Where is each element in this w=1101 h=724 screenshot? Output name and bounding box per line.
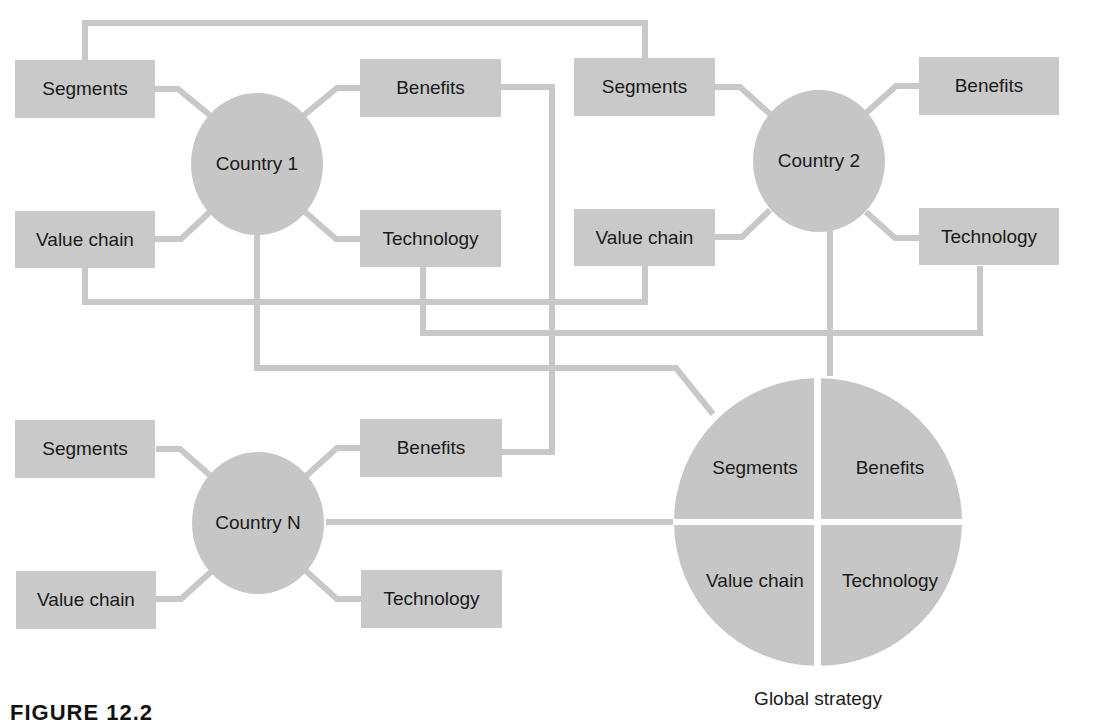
country2-benefits-label: Benefits <box>955 75 1024 97</box>
global-technology-label: Technology <box>842 570 938 592</box>
countryN-value-chain-label: Value chain <box>37 589 135 611</box>
country2-circle: Country 2 <box>753 90 885 232</box>
country1-technology-box: Technology <box>360 210 501 267</box>
country2-benefits-box: Benefits <box>919 57 1059 115</box>
country2-value-chain-box: Value chain <box>574 209 715 266</box>
global-strategy-caption: Global strategy <box>754 688 882 710</box>
global-value-chain-label: Value chain <box>706 570 804 592</box>
country1-benefits-label: Benefits <box>396 77 465 99</box>
country2-label: Country 2 <box>778 150 860 172</box>
country1-benefits-box: Benefits <box>360 59 501 117</box>
country2-technology-box: Technology <box>919 208 1059 265</box>
countryN-technology-label: Technology <box>383 588 479 610</box>
countryN-segments-label: Segments <box>42 438 128 460</box>
countryN-benefits-box: Benefits <box>360 419 502 477</box>
countryN-label: Country N <box>215 512 301 534</box>
country1-technology-label: Technology <box>382 228 478 250</box>
country1-circle: Country 1 <box>191 93 323 235</box>
countryN-technology-box: Technology <box>361 570 502 628</box>
country2-segments-box: Segments <box>574 58 715 116</box>
country2-segments-label: Segments <box>602 76 688 98</box>
country1-label: Country 1 <box>216 153 298 175</box>
country1-segments-label: Segments <box>42 78 128 100</box>
country1-value-chain-box: Value chain <box>15 211 155 268</box>
country1-segments-box: Segments <box>15 60 155 118</box>
country2-value-chain-label: Value chain <box>596 227 694 249</box>
countryN-benefits-label: Benefits <box>397 437 466 459</box>
figure-label: FIGURE 12.2 <box>10 700 153 724</box>
countryN-segments-box: Segments <box>15 420 155 478</box>
country1-value-chain-label: Value chain <box>36 229 134 251</box>
country2-technology-label: Technology <box>941 226 1037 248</box>
countryN-value-chain-box: Value chain <box>16 571 156 629</box>
global-segments-label: Segments <box>712 457 798 479</box>
countryN-circle: Country N <box>192 452 324 594</box>
global-strategy-circle <box>673 367 973 667</box>
global-benefits-label: Benefits <box>856 457 925 479</box>
